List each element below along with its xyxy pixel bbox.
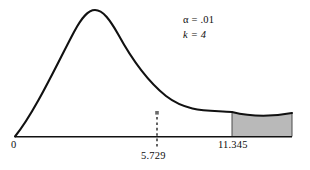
axis-label-test-statistic: 5.729 xyxy=(141,150,166,161)
axis-label-origin: 0 xyxy=(11,139,16,150)
chi-square-distribution-figure: α = .01 k = 4 0 11.345 5.729 xyxy=(0,0,310,170)
distribution-plot xyxy=(0,0,310,170)
axis-label-critical-value: 11.345 xyxy=(218,139,248,150)
degrees-of-freedom-annotation: k = 4 xyxy=(183,29,206,40)
alpha-annotation: α = .01 xyxy=(183,14,214,25)
test-statistic-top-marker xyxy=(155,111,159,115)
test-statistic-marker-group xyxy=(155,111,159,148)
